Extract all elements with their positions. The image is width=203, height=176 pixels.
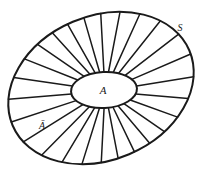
- annular-sector-diagram: A Ā S: [0, 0, 203, 176]
- label-annulus-region: Ā: [38, 120, 46, 131]
- label-inner-region: A: [99, 84, 107, 96]
- label-outer-boundary: S: [178, 22, 183, 33]
- figure-container: A Ā S: [0, 0, 203, 176]
